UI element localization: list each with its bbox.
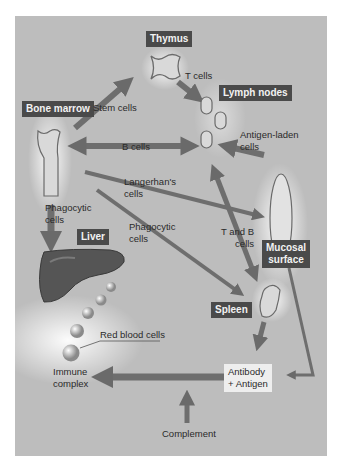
arrow-spleen-antibody — [258, 322, 264, 345]
text-phagocytic-left-line2: cells — [45, 214, 91, 226]
lymph-node-icon — [201, 97, 212, 114]
arrow-mucosal-antibody — [289, 268, 313, 375]
text-t-and-b-line1: T and B — [221, 226, 254, 238]
liver-icon — [40, 249, 125, 302]
text-stem-cells: Stem cells — [93, 102, 137, 114]
text-t-and-b: T and B cells — [221, 226, 254, 250]
text-immune-complex-line1: Immune — [53, 366, 88, 378]
thymus-icon — [151, 55, 180, 80]
text-antibody-line1: Antibody — [228, 366, 268, 378]
text-langerhans: Langerhan's cells — [124, 176, 176, 200]
text-phagocytic-mid-line2: cells — [129, 233, 175, 245]
lymph-node-icon — [201, 131, 212, 148]
text-immune-complex-line2: complex — [53, 378, 88, 390]
label-lymph-nodes: Lymph nodes — [219, 85, 292, 101]
label-liver: Liver — [77, 229, 109, 245]
label-mucosal-line2: surface — [266, 254, 306, 266]
label-spleen: Spleen — [211, 302, 252, 318]
text-t-cells: T cells — [185, 70, 212, 82]
text-langerhans-line2: cells — [124, 188, 176, 200]
blood-cell-icon — [106, 282, 116, 292]
label-mucosal-surface: Mucosal surface — [262, 240, 310, 268]
blood-cell-icon — [63, 345, 80, 362]
text-complement: Complement — [162, 428, 216, 440]
text-phagocytic-mid-line1: Phagocytic — [129, 221, 175, 233]
text-antigen-laden-line1: Antigen-laden — [240, 129, 299, 141]
blood-cell-icon — [70, 324, 84, 338]
text-phagocytic-mid: Phagocytic cells — [129, 221, 175, 245]
text-phagocytic-left-line1: Phagocytic — [45, 202, 91, 214]
blood-cell-icon — [82, 307, 94, 319]
text-antigen-laden: Antigen-laden cells — [240, 129, 299, 153]
text-antigen-laden-line2: cells — [240, 141, 299, 153]
blood-cell-icon — [96, 295, 107, 306]
text-phagocytic-left: Phagocytic cells — [45, 202, 91, 226]
text-t-and-b-line2: cells — [221, 238, 254, 250]
text-immune-complex: Immune complex — [53, 366, 88, 390]
text-langerhans-line1: Langerhan's — [124, 176, 176, 188]
text-b-cells: B cells — [122, 141, 150, 153]
lymph-node-icon — [215, 112, 226, 129]
label-bone-marrow: Bone marrow — [22, 101, 94, 117]
text-antibody-line2: + Antigen — [228, 378, 268, 390]
box-antibody-antigen: Antibody + Antigen — [224, 364, 272, 392]
label-mucosal-line1: Mucosal — [266, 242, 306, 254]
arrow-t-cells — [178, 82, 198, 98]
text-red-blood-cells: Red blood cells — [100, 329, 165, 341]
label-thymus: Thymus — [146, 31, 192, 47]
arrow-t-and-b — [214, 170, 255, 276]
